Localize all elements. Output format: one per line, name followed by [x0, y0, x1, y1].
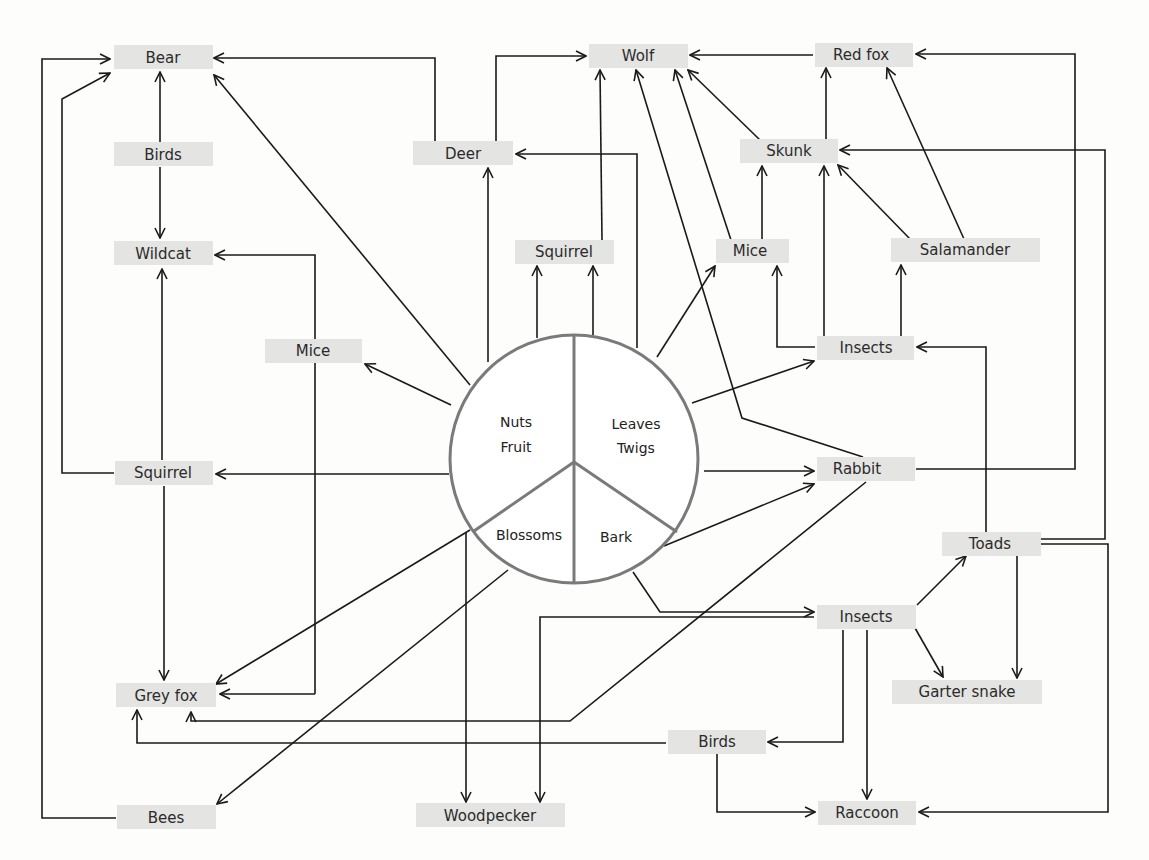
svg-text:Raccoon: Raccoon: [835, 804, 899, 822]
node-squirrel-left: Squirrel: [115, 461, 213, 485]
edge-bark-insects: [633, 572, 814, 612]
svg-text:Mice: Mice: [296, 342, 331, 360]
svg-text:Salamander: Salamander: [920, 241, 1011, 259]
edge-blossoms-bees: [217, 570, 508, 804]
node-deer: Deer: [413, 141, 513, 165]
svg-text:Mice: Mice: [733, 242, 768, 260]
edge-insects-gartersnake: [915, 628, 943, 677]
node-insects-bottom: Insects: [817, 605, 916, 629]
svg-text:Birds: Birds: [144, 146, 182, 164]
node-squirrel-top: Squirrel: [515, 240, 614, 264]
svg-text:Toads: Toads: [968, 535, 1012, 553]
plant-wheel: Nuts Fruit Leaves Twigs Blossoms Bark: [450, 335, 698, 583]
svg-text:Insects: Insects: [840, 339, 893, 357]
edge-toads-insects: [917, 347, 986, 532]
svg-text:Insects: Insects: [840, 608, 893, 626]
edge-bees-bear: [42, 59, 116, 818]
svg-text:Grey fox: Grey fox: [134, 687, 197, 705]
svg-text:Woodpecker: Woodpecker: [444, 807, 537, 825]
svg-text:Wolf: Wolf: [622, 47, 655, 65]
svg-text:Bear: Bear: [146, 49, 182, 67]
node-red-fox: Red fox: [815, 43, 913, 67]
edge-nuts-mice: [365, 364, 451, 405]
node-bear: Bear: [114, 45, 213, 69]
edge-birds-raccoon: [717, 754, 815, 812]
node-birds-top: Birds: [114, 142, 213, 166]
node-wolf: Wolf: [589, 44, 688, 68]
svg-text:Rabbit: Rabbit: [833, 460, 881, 478]
edge-insects-toads: [917, 556, 966, 605]
svg-text:Red fox: Red fox: [833, 46, 889, 64]
edge-nuts-greyfox: [216, 530, 470, 684]
node-raccoon: Raccoon: [818, 801, 916, 825]
edge-squirrel-bear: [62, 73, 114, 473]
edge-squirrel-top-wolf: [600, 70, 602, 240]
segment-leaves-twigs-line1: Leaves: [612, 416, 661, 432]
edge-skunk-wolf: [688, 70, 760, 140]
node-mice-top: Mice: [716, 239, 789, 263]
edge-insects-birds: [768, 630, 843, 742]
edge-salamander-skunk: [838, 165, 910, 239]
node-woodpecker: Woodpecker: [416, 803, 565, 827]
node-rabbit: Rabbit: [817, 457, 915, 481]
svg-text:Squirrel: Squirrel: [535, 243, 593, 261]
svg-text:Birds: Birds: [698, 733, 736, 751]
edge-toads-raccoon: [919, 544, 1108, 812]
svg-text:Skunk: Skunk: [766, 142, 812, 160]
edge-deer-wolf: [496, 56, 586, 141]
segment-bark: Bark: [600, 529, 633, 545]
svg-text:Bees: Bees: [148, 809, 185, 827]
edge-leaves-insects: [692, 361, 814, 403]
svg-text:Wildcat: Wildcat: [135, 245, 191, 263]
svg-text:Garter snake: Garter snake: [919, 683, 1016, 701]
node-salamander: Salamander: [891, 238, 1040, 262]
node-wildcat: Wildcat: [114, 241, 213, 265]
food-web-diagram: Nuts Fruit Leaves Twigs Blossoms Bark Be…: [0, 0, 1149, 860]
svg-text:Squirrel: Squirrel: [134, 464, 192, 482]
edge-deer-bear: [214, 58, 435, 141]
edge-mice-top-wolf: [675, 70, 731, 240]
node-garter-snake: Garter snake: [892, 680, 1042, 704]
node-birds-bottom: Birds: [668, 730, 766, 754]
edge-insects-mice: [777, 266, 815, 347]
segment-nuts-fruit-line1: Nuts: [500, 414, 532, 430]
node-skunk: Skunk: [740, 139, 838, 163]
node-bees: Bees: [117, 805, 216, 829]
svg-text:Deer: Deer: [445, 145, 482, 163]
edge-salamander-redfox: [887, 68, 964, 239]
edge-nuts-bear: [214, 75, 470, 385]
segment-nuts-fruit-line2: Fruit: [500, 439, 532, 455]
node-mice-left: Mice: [265, 339, 362, 363]
edge-insects-woodpecker: [540, 617, 814, 802]
segment-blossoms: Blossoms: [496, 527, 562, 543]
segment-leaves-twigs-line2: Twigs: [616, 440, 655, 456]
edge-birds-greyfox: [137, 710, 666, 743]
node-grey-fox: Grey fox: [116, 683, 216, 707]
node-toads: Toads: [942, 532, 1041, 556]
node-insects-mid: Insects: [817, 336, 914, 360]
edge-leaves-mice-top: [657, 266, 715, 357]
